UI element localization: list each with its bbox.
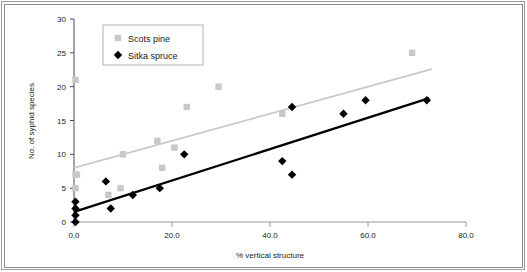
x-axis-tick-label: 40.0	[262, 231, 278, 240]
data-point-sitka-spruce	[278, 157, 286, 165]
data-point-sitka-spruce	[423, 96, 431, 104]
data-point-scots-pine	[409, 50, 415, 56]
legend-marker-scots-pine	[115, 35, 121, 41]
data-point-scots-pine	[171, 144, 177, 150]
data-point-sitka-spruce	[288, 170, 296, 178]
x-axis-title: % vertical structure	[236, 251, 305, 260]
y-axis-tick-label: 15	[57, 117, 66, 126]
trendline-sitka-spruce	[74, 98, 429, 212]
x-axis-tick-label: 60.0	[360, 231, 376, 240]
data-points-group	[71, 50, 431, 227]
y-axis-tick-label: 25	[57, 49, 66, 58]
data-point-scots-pine	[105, 192, 111, 198]
data-point-scots-pine	[120, 151, 126, 157]
trendlines-group	[74, 69, 432, 212]
data-point-scots-pine	[72, 185, 78, 191]
data-point-sitka-spruce	[361, 96, 369, 104]
data-point-sitka-spruce	[288, 103, 296, 111]
data-point-sitka-spruce	[339, 110, 347, 118]
scatter-chart: 051015202530 0.020.040.060.080.0 No. of …	[0, 0, 527, 272]
y-axis-ticks: 051015202530	[57, 15, 74, 227]
y-axis-tick-label: 5	[62, 184, 67, 193]
chart-plot-area: 051015202530 0.020.040.060.080.0 No. of …	[0, 0, 527, 272]
trendline-scots-pine	[74, 69, 432, 168]
y-axis-tick-label: 20	[57, 83, 66, 92]
data-point-scots-pine	[74, 171, 80, 177]
data-point-scots-pine	[154, 138, 160, 144]
data-point-sitka-spruce	[102, 177, 110, 185]
data-point-sitka-spruce	[180, 150, 188, 158]
data-point-scots-pine	[159, 165, 165, 171]
data-point-sitka-spruce	[71, 198, 79, 206]
x-axis-ticks: 0.020.040.060.080.0	[68, 222, 474, 240]
y-axis-title: No. of syphid species	[27, 83, 36, 159]
y-axis-tick-label: 30	[57, 15, 66, 24]
data-point-scots-pine	[117, 185, 123, 191]
data-point-scots-pine	[184, 104, 190, 110]
x-axis-tick-label: 0.0	[68, 231, 80, 240]
chart-legend: Scots pineSitka spruce	[103, 25, 203, 65]
legend-label-sitka-spruce: Sitka spruce	[128, 51, 178, 61]
x-axis-tick-label: 20.0	[164, 231, 180, 240]
y-axis-tick-label: 0	[62, 218, 67, 227]
data-point-scots-pine	[215, 83, 221, 89]
data-point-scots-pine	[279, 111, 285, 117]
data-point-scots-pine	[72, 77, 78, 83]
figure-frame: 051015202530 0.020.040.060.080.0 No. of …	[0, 0, 527, 272]
data-point-sitka-spruce	[107, 204, 115, 212]
legend-label-scots-pine: Scots pine	[128, 34, 170, 44]
x-axis-tick-label: 80.0	[458, 231, 474, 240]
y-axis-tick-label: 10	[57, 150, 66, 159]
